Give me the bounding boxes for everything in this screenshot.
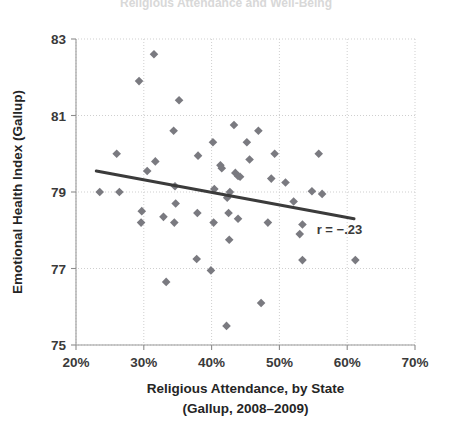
data-point [318,190,327,199]
data-point [207,266,216,275]
data-point [314,149,323,158]
data-point [295,230,304,239]
y-axis-tick-label: 77 [51,262,66,277]
data-point [270,149,279,158]
scatter-chart: Religious Attendance and Well-Being 7577… [0,0,464,436]
data-point [112,149,121,158]
data-point [143,167,152,176]
data-point [222,322,231,331]
data-point [159,213,168,222]
data-point [170,218,179,227]
data-point [171,199,180,208]
data-point [151,157,160,166]
correlation-annotation: r = −.23 [317,222,363,237]
data-point [224,209,233,218]
data-point [169,127,178,136]
data-point [209,218,218,227]
data-point [298,220,307,229]
data-point [264,218,273,227]
data-point [289,197,298,206]
data-point [193,209,202,218]
data-point [209,138,218,147]
data-point [137,207,146,216]
data-point [298,256,307,265]
data-point [225,236,234,245]
data-point [194,151,203,160]
y-axis-title: Emotional Health Index (Gallup) [10,90,25,294]
data-point [243,138,252,147]
data-point [245,155,254,164]
data-point [234,214,243,223]
x-axis-tick-label: 50% [266,355,293,370]
x-axis-tick-label: 20% [62,355,89,370]
data-point [351,256,360,265]
x-axis-title: Religious Attendance, by State [147,381,345,396]
data-point [150,50,159,59]
x-axis-tick-label: 70% [401,355,428,370]
data-point [175,96,184,105]
x-axis-title-line2: (Gallup, 2008–2009) [182,401,308,416]
x-axis-tick-label: 40% [198,355,225,370]
y-axis-tick-label: 75 [51,338,67,353]
x-axis-tick-label: 60% [334,355,361,370]
x-axis-tick-label: 30% [130,355,157,370]
data-point [308,187,317,196]
data-point [162,278,171,287]
data-point [254,127,263,136]
data-point [135,77,144,86]
data-point [281,178,290,187]
y-axis-tick-label: 79 [51,185,66,200]
data-point [95,188,104,197]
data-point [257,299,266,308]
data-point [115,188,124,197]
data-point [267,174,276,183]
y-axis-tick-label: 83 [51,32,67,47]
y-axis-tick-label: 81 [51,109,67,124]
data-point [230,121,239,130]
plot-svg: 757779818320%30%40%50%60%70%Emotional He… [0,0,464,436]
data-point [192,255,201,264]
trend-line [96,171,354,219]
